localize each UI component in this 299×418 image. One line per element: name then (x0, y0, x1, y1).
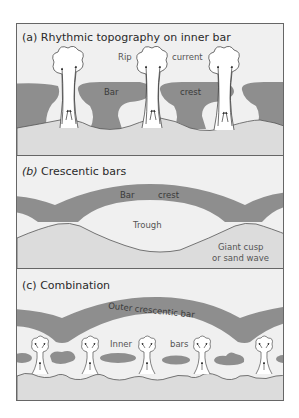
panel-c-label-bars: bars (170, 339, 189, 349)
panel-b-label-giant-cusp: Giant cusp (218, 242, 263, 252)
panel-c-label-inner: Inner (110, 339, 133, 349)
panel-c-title: (c) Combination (22, 279, 110, 292)
panel-b-crescentic-bars: Bar crest Trough Giant cusp or sand wave… (10, 156, 290, 270)
panel-c-combination: Outer crescentic bar Inner bars (c) Comb… (10, 269, 292, 404)
panel-a-title: (a) Rhythmic topography on inner bar (22, 31, 231, 44)
panel-b-title: (b) Crescentic bars (22, 165, 126, 178)
panel-b-label-sand-wave: or sand wave (212, 253, 269, 263)
panel-a-label-bar: Bar (104, 87, 119, 97)
panel-a-label-rip: Rip (118, 52, 132, 62)
panel-b-label-crest: crest (158, 190, 180, 200)
panel-a-label-crest: crest (180, 87, 202, 97)
panel-a-rhythmic-topography: Rip current Bar crest (a) Rhythmic topog… (10, 24, 290, 160)
panel-b-label-bar: Bar (120, 190, 135, 200)
panel-a-label-current: current (172, 52, 203, 62)
beach-morphology-figure: Rip current Bar crest (a) Rhythmic topog… (0, 0, 299, 418)
panel-b-label-trough: Trough (132, 220, 162, 230)
